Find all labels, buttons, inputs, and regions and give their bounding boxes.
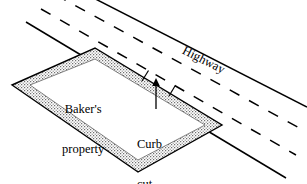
curb-cut-label: Curb cut	[137, 112, 162, 184]
curb-cut-label-line-1: Curb	[137, 138, 162, 151]
property-highway-diagram: Baker's property Curb cut Highway	[0, 0, 307, 184]
parcel-label-line-2: property	[62, 143, 104, 156]
parcel-label-line-1: Baker's	[62, 103, 104, 116]
parcel-label: Baker's property	[62, 77, 104, 182]
curb-cut-label-line-2: cut	[137, 178, 162, 184]
